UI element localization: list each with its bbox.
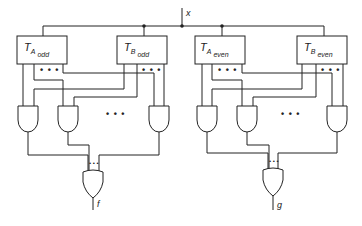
ellipsis: • • • — [142, 65, 161, 75]
ellipsis: • • • — [40, 65, 59, 75]
output-label-g: g — [277, 200, 282, 210]
input-label: x — [185, 8, 191, 18]
block-subsub: even — [213, 51, 228, 58]
ellipsis: • • • — [218, 65, 237, 75]
and-gate — [58, 106, 78, 132]
block-subsub: odd — [37, 51, 50, 58]
block-tb-odd: TBodd — [117, 36, 167, 64]
block-sub: A — [30, 48, 36, 55]
and-gate — [327, 106, 347, 132]
block-sub: B — [311, 48, 316, 55]
input-x: x — [182, 8, 191, 26]
ellipsis: • • • — [106, 109, 125, 119]
input-bus — [43, 24, 324, 36]
block-sub: B — [131, 48, 136, 55]
block-subsub: odd — [137, 51, 150, 58]
block-tb-even: TBeven — [297, 36, 347, 64]
ellipsis-small: • • • — [269, 158, 279, 164]
and-gate — [197, 106, 217, 132]
block-sub: A — [206, 48, 212, 55]
junction-dot — [180, 24, 184, 28]
block-ta-odd: TAodd — [17, 36, 67, 64]
and-gate — [18, 106, 38, 132]
output-label-f: f — [97, 199, 101, 209]
ellipsis: • • • — [321, 65, 340, 75]
block-subsub: even — [317, 51, 332, 58]
junction-dot — [220, 24, 224, 28]
ellipsis: • • • — [281, 109, 300, 119]
and-gate — [237, 106, 257, 132]
bus-line — [43, 26, 324, 36]
or-gate-g — [263, 168, 283, 196]
or-gate-f — [83, 170, 103, 198]
ellipsis-small: • • • — [89, 160, 99, 166]
block-ta-even: TAeven — [195, 36, 245, 64]
circuit-diagram: x TAodd • • • TBodd — [0, 0, 362, 226]
and-gate — [149, 106, 169, 132]
junction-dot — [142, 24, 146, 28]
